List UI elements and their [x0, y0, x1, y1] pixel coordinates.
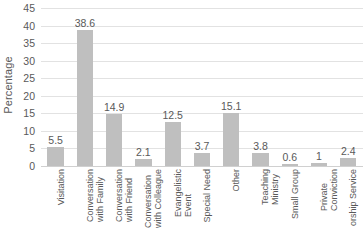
x-axis-category-label-line1: Conversation [114, 169, 124, 222]
x-axis-category: Other [217, 167, 246, 233]
bar[interactable]: 2.4 [340, 158, 356, 166]
bar-slot: 5.5 [41, 8, 70, 166]
x-axis-category-label-line1: Private [319, 183, 329, 211]
bar[interactable]: 12.5 [165, 122, 181, 166]
x-axis-category-label: Other [231, 169, 241, 192]
y-axis-tick: 45 [23, 3, 35, 13]
bar[interactable]: 5.5 [47, 147, 63, 166]
y-axis-tick: 35 [23, 38, 35, 48]
x-axis-category-label-line1: Teaching [260, 169, 270, 205]
x-axis-category-label: Special Need [202, 169, 212, 223]
bar-slot: 14.9 [100, 8, 129, 166]
x-axis-category-label-line1: Conversation [85, 169, 95, 222]
bar[interactable]: 3.7 [194, 153, 210, 166]
bar-value-label: 2.4 [341, 146, 356, 157]
bar-value-label: 5.5 [48, 135, 63, 146]
x-axis-category-label-line1: Conversation [143, 175, 153, 228]
x-axis-category: Conversationwith Friend [100, 167, 129, 233]
x-axis-category-label: Visitation [56, 169, 66, 205]
x-axis-category-label: Small Group [290, 169, 300, 219]
bar-slot: 38.6 [70, 8, 99, 166]
x-axis-category-label-line1: Other [231, 169, 241, 192]
x-axis-category: Special Need [187, 167, 216, 233]
bar[interactable]: 38.6 [77, 30, 93, 166]
bar-slot: 0.6 [275, 8, 304, 166]
x-axis-category: Visitation [41, 167, 70, 233]
y-axis-tick-labels: 454035302520151050 [16, 8, 38, 166]
x-axis-category: Conversationwith Colleague [129, 167, 158, 233]
y-axis-tick: 40 [23, 21, 35, 31]
bar-chart: Percentage 454035302520151050 5.538.614.… [0, 0, 364, 233]
x-axis-category: PrivateConviction [304, 167, 333, 233]
bar-slot: 3.7 [187, 8, 216, 166]
y-axis-tick: 5 [29, 143, 35, 153]
y-axis-tick: 20 [23, 91, 35, 101]
y-axis-title: Percentage [0, 0, 16, 170]
bar-value-label: 2.1 [136, 147, 151, 158]
bar[interactable]: 15.1 [223, 113, 239, 166]
x-axis-category: orship Service [334, 167, 363, 233]
x-axis-category-label-line1: Visitation [56, 169, 66, 205]
x-axis-category: EvangelisticEvent [158, 167, 187, 233]
bar-value-label: 12.5 [162, 110, 182, 121]
y-axis-tick: 30 [23, 56, 35, 66]
bars-container: 5.538.614.92.112.53.715.13.80.612.4 [41, 8, 363, 166]
y-axis-title-text: Percentage [2, 56, 14, 113]
bar-slot: 2.1 [129, 8, 158, 166]
bar-slot: 15.1 [217, 8, 246, 166]
y-axis-tick: 10 [23, 126, 35, 136]
bar-value-label: 0.6 [282, 152, 297, 163]
x-axis-category-label: orship Service [348, 169, 358, 226]
plot-area: 5.538.614.92.112.53.715.13.80.612.4 [41, 8, 363, 166]
bar-slot: 2.4 [334, 8, 363, 166]
bar[interactable]: 3.8 [252, 153, 268, 166]
bar[interactable]: 1 [311, 163, 327, 167]
bar-value-label: 14.9 [104, 102, 124, 113]
x-axis-category-label-line1: Special Need [202, 169, 212, 223]
bar-value-label: 15.1 [221, 101, 241, 112]
x-axis-category: Small Group [275, 167, 304, 233]
bar-value-label: 1 [316, 151, 322, 162]
bar-value-label: 38.6 [75, 18, 95, 29]
y-axis-tick: 15 [23, 108, 35, 118]
bar-slot: 1 [304, 8, 333, 166]
bar[interactable]: 0.6 [282, 164, 298, 166]
bar-slot: 12.5 [158, 8, 187, 166]
y-axis-tick: 25 [23, 73, 35, 83]
x-axis-category-label-line1: Evangelistic [173, 169, 183, 217]
x-axis-category-label-line1: orship Service [348, 169, 358, 226]
bar-slot: 3.8 [246, 8, 275, 166]
x-axis-category: Conversationwith Family [70, 167, 99, 233]
y-axis-tick: 0 [29, 161, 35, 171]
x-axis-category: TeachingMinistry [246, 167, 275, 233]
bar[interactable]: 14.9 [106, 114, 122, 166]
x-axis-category-label-line1: Small Group [290, 169, 300, 219]
bar-value-label: 3.8 [253, 141, 268, 152]
x-axis-category-labels: VisitationConversationwith FamilyConvers… [41, 167, 363, 233]
bar[interactable]: 2.1 [135, 159, 151, 166]
bar-value-label: 3.7 [195, 141, 210, 152]
